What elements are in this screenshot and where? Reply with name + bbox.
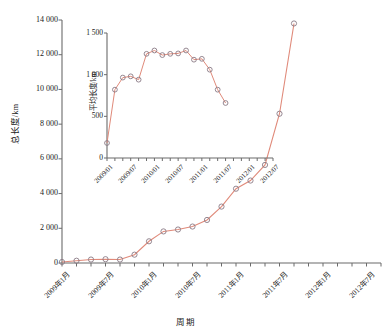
inset-y-tick-label: 1 500 (64, 28, 103, 37)
inset-chart-canvas (0, 0, 391, 333)
inset-series-markers (105, 48, 228, 145)
inset-series-line (107, 51, 226, 144)
inset-y-axis-title: 平均长度/km (87, 62, 98, 122)
figure-root: 02 0004 0006 0008 00010 00012 00014 000 … (0, 0, 391, 333)
inset-y-tick-label: 0 (64, 153, 103, 162)
